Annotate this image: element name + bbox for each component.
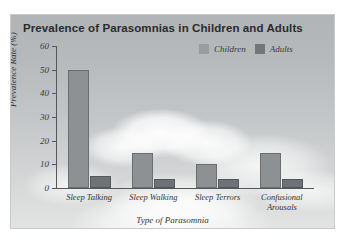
bar-adults-confusional-arousals: [282, 179, 303, 188]
bar-groups: [57, 46, 314, 188]
bar-group-sleep-terrors: [186, 46, 250, 188]
x-label-sleep-walking: Sleep Walking: [121, 192, 185, 212]
bar-adults-sleep-walking: [154, 179, 175, 188]
x-label-sleep-terrors: Sleep Terrors: [186, 192, 250, 212]
x-label-confusional-arousals: Confusional Arousals: [250, 192, 314, 212]
bar-group-confusional-arousals: [250, 46, 314, 188]
bar-children-confusional-arousals: [260, 153, 281, 189]
bar-group-sleep-walking: [121, 46, 185, 188]
bar-children-sleep-walking: [132, 153, 153, 189]
plot-area: 60 50 40 30 20 10: [56, 46, 314, 189]
x-axis-labels: Sleep Talking Sleep Walking Sleep Terror…: [57, 192, 314, 212]
chart-title: Prevalence of Parasomnias in Children an…: [23, 22, 303, 34]
bar-adults-sleep-terrors: [218, 179, 239, 188]
bar-group-sleep-talking: [57, 46, 121, 188]
bar-children-sleep-terrors: [196, 164, 217, 188]
x-axis-title: Type of Parasomnia: [11, 215, 334, 225]
bar-adults-sleep-talking: [90, 176, 111, 188]
x-label-sleep-talking: Sleep Talking: [57, 192, 121, 212]
chart-panel: Prevalence of Parasomnias in Children an…: [10, 14, 335, 229]
y-axis-title: Prevalence Rate (%): [10, 32, 18, 107]
x-axis-line: [56, 188, 314, 189]
chart-screenshot: Prevalence of Parasomnias in Children an…: [0, 0, 347, 245]
bar-children-sleep-talking: [68, 70, 89, 188]
